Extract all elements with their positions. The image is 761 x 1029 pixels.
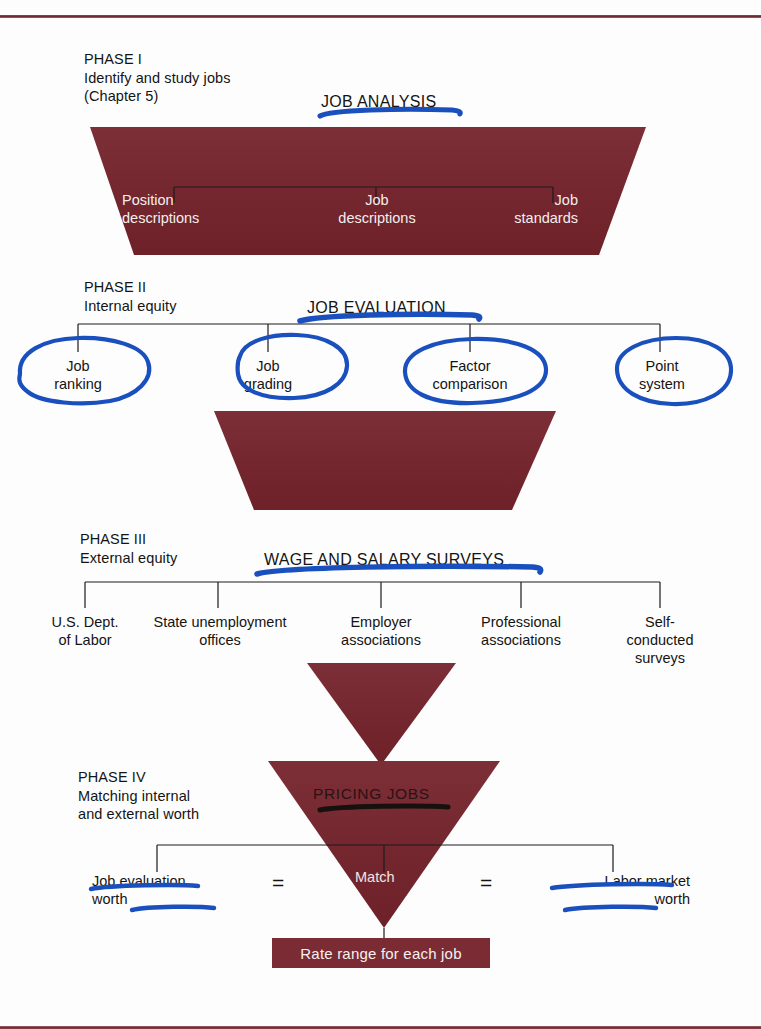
phase3-node-professional-associations: Professional associations	[457, 613, 585, 649]
phase4-section-title: PRICING JOBS	[313, 785, 430, 803]
phase3-node-us-dept-of-labor: U.S. Dept. of Labor	[33, 613, 137, 649]
phase4-equals-right: =	[480, 871, 492, 895]
phase4-outcome-box: Rate range for each job	[272, 938, 490, 968]
phase3-triangle	[307, 663, 456, 765]
phase2-section-title: JOB EVALUATION	[307, 299, 446, 317]
phase3-node-employer-associations: Employer associations	[317, 613, 445, 649]
phase4-label: PHASE IV Matching internal and external …	[78, 768, 199, 824]
phase2-label: PHASE II Internal equity	[84, 278, 177, 315]
phase2-node-job-ranking: Job ranking	[28, 357, 128, 393]
phase1-node-position-descriptions: Position descriptions	[122, 191, 232, 227]
phase4-equals-left: =	[272, 871, 284, 895]
phase4-left-label: Job evaluation worth	[92, 872, 242, 908]
phase4-match-label: Match	[355, 869, 395, 885]
phase3-label: PHASE III External equity	[80, 530, 177, 567]
phase4-right-label: Labor market worth	[540, 872, 690, 908]
phase1-node-job-descriptions: Job descriptions	[312, 191, 442, 227]
phase2-node-factor-comparison: Factor comparison	[408, 357, 532, 393]
diagram-page: PHASE I Identify and study jobs (Chapter…	[0, 0, 761, 1029]
phase1-node-job-standards: Job standards	[478, 191, 578, 227]
phase2-node-point-system: Point system	[612, 357, 712, 393]
phase3-node-state-unemployment-offices: State unemployment offices	[141, 613, 299, 649]
phase1-label: PHASE I Identify and study jobs (Chapter…	[84, 50, 231, 106]
phase1-section-title: JOB ANALYSIS	[321, 93, 436, 111]
phase2-node-job-grading: Job grading	[218, 357, 318, 393]
phase2-trapezoid	[214, 411, 556, 510]
phase3-section-title: WAGE AND SALARY SURVEYS	[264, 551, 504, 569]
phase3-node-self-conducted-surveys: Self- conducted surveys	[610, 613, 710, 667]
